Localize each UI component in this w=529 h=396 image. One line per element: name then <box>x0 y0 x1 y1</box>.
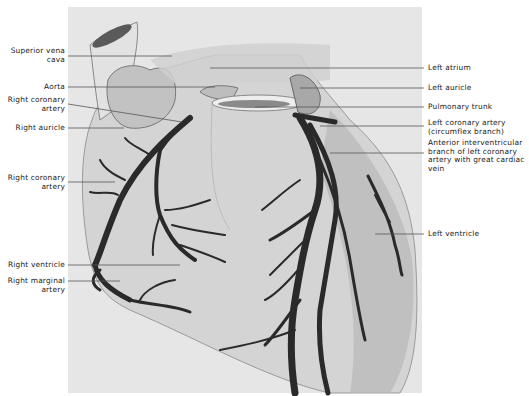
label-left-auricle: Left auricle <box>428 84 472 93</box>
label-superior-vena-cava: Superior vena cava <box>5 47 65 64</box>
label-right-marginal-artery: Right marginal artery <box>5 277 65 294</box>
label-right-coronary-artery-top: Right coronary artery <box>5 96 65 113</box>
label-pulmonary-trunk: Pulmonary trunk <box>428 103 492 112</box>
heart-illustration <box>0 0 529 396</box>
label-right-auricle: Right auricle <box>5 124 65 133</box>
label-right-ventricle: Right ventricle <box>5 261 65 270</box>
label-left-coronary-artery-circumflex: Left coronary artery (circumflex branch) <box>428 119 506 136</box>
label-aorta: Aorta <box>5 83 65 92</box>
label-left-ventricle: Left ventricle <box>428 230 479 239</box>
label-anterior-interventricular-branch: Anterior interventricular branch of left… <box>428 139 525 173</box>
label-left-atrium: Left atrium <box>428 64 471 73</box>
label-right-coronary-artery-mid: Right coronary artery <box>5 174 65 191</box>
